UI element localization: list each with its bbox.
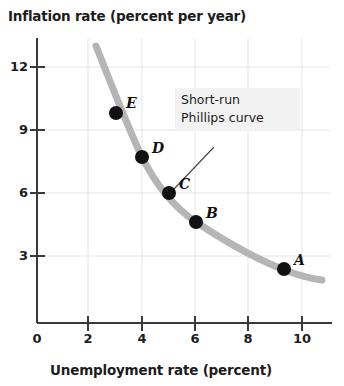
data-point-label-C: C [179, 176, 190, 192]
x-tick-label-10: 10 [291, 331, 313, 346]
x-tick-label-2: 2 [77, 331, 99, 346]
x-axis-title: Unemployment rate (percent) [50, 362, 272, 378]
x-tick-label-0: 0 [26, 331, 48, 346]
data-point-E [109, 106, 123, 120]
y-tick-label-9: 9 [2, 122, 28, 137]
x-tick-label-8: 8 [237, 331, 259, 346]
x-tick-label-6: 6 [184, 331, 206, 346]
phillips-curve [96, 46, 322, 280]
y-tick-label-6: 6 [2, 185, 28, 200]
y-tick-label-12: 12 [2, 59, 28, 74]
data-point-label-B: B [206, 205, 218, 221]
x-tick-label-4: 4 [131, 331, 153, 346]
data-point-label-E: E [126, 95, 137, 111]
data-point-label-A: A [294, 252, 305, 268]
short-run-phillips-curve-annotation: Short-run Phillips curve [175, 88, 300, 131]
data-point-D [135, 150, 149, 164]
y-axis-title: Inflation rate (percent per year) [8, 8, 246, 24]
data-point-A [277, 262, 291, 276]
data-point-B [189, 215, 203, 229]
data-point-label-D: D [152, 140, 164, 156]
plot-area [0, 0, 344, 386]
y-tick-label-3: 3 [2, 248, 28, 263]
annotation-line-2: Phillips curve [181, 109, 296, 127]
data-point-C [162, 186, 176, 200]
annotation-line-1: Short-run [181, 91, 296, 109]
data-points [109, 106, 291, 276]
phillips-curve-chart: Inflation rate (percent per year) [0, 0, 344, 386]
